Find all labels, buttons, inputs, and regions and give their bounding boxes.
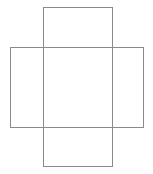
- diagram-svg: [0, 0, 153, 174]
- vertical-rectangle: [43, 7, 112, 166]
- figure-canvas: [0, 0, 153, 174]
- horizontal-rectangle: [10, 47, 143, 127]
